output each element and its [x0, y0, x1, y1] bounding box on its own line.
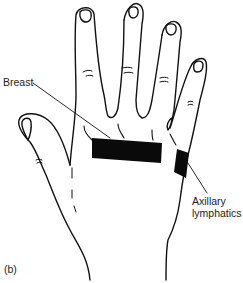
axillary-label-line1: Axillary [192, 195, 242, 207]
ring-finger-outline [162, 22, 181, 130]
axillary-lymphatics-band [174, 149, 189, 178]
finger-base-line [118, 124, 124, 138]
thumbnail-icon [22, 118, 31, 140]
breast-label: Breast [3, 76, 33, 88]
knuckle-crease [83, 70, 93, 76]
ring-fingernail-icon [166, 24, 176, 35]
hand-outline-drawing [0, 0, 243, 283]
finger-base-line [152, 130, 153, 140]
middle-finger-outline [124, 4, 162, 118]
thumb-outline [19, 114, 90, 280]
index-fingernail-icon [80, 10, 91, 22]
axillary-lymphatics-label: Axillary lymphatics [192, 195, 242, 219]
finger-base-line [84, 126, 92, 140]
finger-base-line [170, 134, 176, 145]
knuckle-crease [188, 101, 193, 105]
axillary-label-line2: lymphatics [192, 207, 242, 219]
breast-leader-line [33, 83, 110, 138]
knuckle-crease [122, 67, 133, 73]
middle-fingernail-icon [129, 7, 138, 18]
breast-band [92, 138, 162, 163]
palm-dash [74, 206, 76, 212]
little-fingernail-icon [194, 61, 203, 72]
axillary-leader-line [186, 160, 207, 193]
panel-label: (b) [4, 263, 17, 275]
knuckle-crease [160, 77, 168, 82]
hand-diagram: Breast Axillary lymphatics (b) [0, 0, 243, 283]
